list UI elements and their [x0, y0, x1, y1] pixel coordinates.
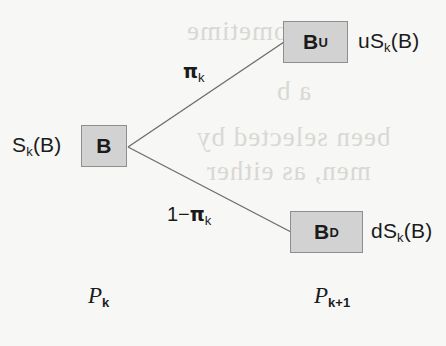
period-label-next-sub: k+1	[328, 295, 350, 310]
background-bleed-line-3: been selected by	[196, 122, 390, 153]
node-down-bd[interactable]: BD	[290, 211, 363, 253]
edge-label-up-probability: πk	[183, 60, 205, 85]
node-root-value-label: Sk(B)	[12, 133, 62, 159]
node-root-value-tail: (B)	[33, 133, 62, 156]
node-down-value-tail: (B)	[404, 219, 433, 242]
period-label-next: Pk+1	[314, 283, 350, 310]
edge-label-down-prefix: 1−	[167, 203, 190, 225]
pi-symbol-icon-down: π	[190, 203, 205, 225]
background-bleed-line-4: men, as either	[206, 156, 371, 187]
node-down-bd-sub: D	[330, 225, 339, 240]
node-up-bu[interactable]: BU	[283, 21, 348, 63]
period-label-current-sub: k	[102, 295, 109, 310]
binomial-tree-diagram: sometime a b been selected by men, as ei…	[0, 0, 446, 346]
node-up-bu-label: B	[303, 30, 318, 54]
edge-label-down-probability: 1−πk	[167, 203, 211, 228]
period-label-next-base: P	[314, 283, 328, 308]
edge-root-to-up	[128, 42, 284, 147]
node-up-value-label: uSk(B)	[358, 29, 419, 55]
node-root-value-sub: k	[26, 144, 33, 159]
node-root-value-base: S	[12, 133, 26, 156]
node-down-bd-label: B	[314, 220, 329, 244]
pi-symbol-icon: π	[183, 60, 198, 82]
node-root-b[interactable]: B	[81, 125, 127, 167]
node-up-value-base: uS	[358, 29, 384, 52]
node-up-value-sub: k	[384, 40, 391, 55]
node-down-value-sub: k	[397, 230, 404, 245]
period-label-current-base: P	[88, 283, 102, 308]
node-down-value-label: dSk(B)	[371, 219, 432, 245]
node-up-bu-sub: U	[319, 35, 328, 50]
node-root-b-label: B	[96, 134, 111, 158]
edge-label-up-sub: k	[198, 70, 205, 85]
node-up-value-tail: (B)	[391, 29, 420, 52]
period-label-current: Pk	[88, 283, 109, 310]
node-down-value-base: dS	[371, 219, 397, 242]
background-bleed-line-2: a b	[276, 76, 311, 107]
edge-label-down-sub: k	[205, 213, 212, 228]
